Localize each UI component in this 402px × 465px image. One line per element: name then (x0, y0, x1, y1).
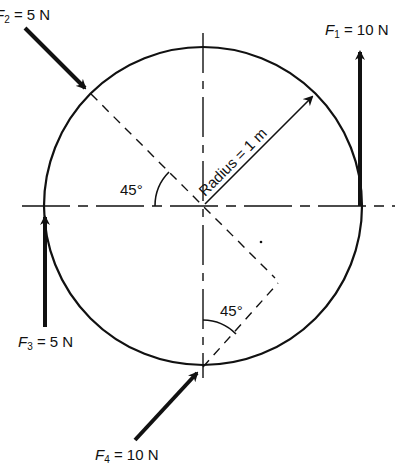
force-f2-label: F2 = 5 N (0, 6, 50, 25)
angle-label-bottom: 45° (220, 302, 243, 319)
force-f3-label: F3 = 5 N (18, 333, 73, 352)
angle-arc-bottom (203, 320, 236, 334)
angle-label-left: 45° (120, 181, 143, 198)
force-f4-arrow (135, 373, 197, 440)
radius-label: Radius = 1 m (195, 124, 270, 199)
force-f2-arrow (25, 28, 85, 88)
force-f4-label: F4 = 10 N (95, 446, 159, 465)
force-f1-label: F1 = 10 N (325, 21, 389, 40)
angle-arc-left (155, 172, 169, 206)
f2-line-of-action (91, 94, 275, 278)
f4-line-of-action (203, 283, 278, 367)
force-diagram: Radius = 1 m 45° 45° F1 = 10 N F2 = 5 N … (0, 0, 402, 465)
reference-dot (260, 241, 263, 244)
radius-arrow (205, 97, 312, 204)
